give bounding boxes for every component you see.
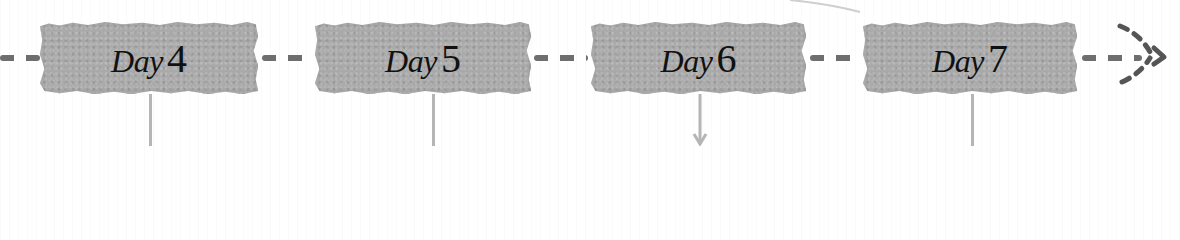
day-number: 7 [988, 35, 1008, 82]
day-4-stem [149, 94, 152, 146]
day-5-stem [432, 94, 435, 146]
timeline-connector-6-7 [810, 55, 860, 61]
day-6-stem-arrow-icon [688, 94, 712, 146]
timeline-connector-4-5 [262, 55, 312, 61]
day-6-label: Day 6 [661, 35, 737, 82]
day-6-box: Day 6 [591, 22, 806, 94]
day-5-label: Day 5 [385, 35, 461, 82]
day-number: 6 [716, 35, 736, 82]
timeline-connector-5-6 [534, 55, 588, 61]
day-5-box: Day 5 [315, 22, 531, 94]
continuation-arrow-icon [1110, 20, 1176, 90]
day-number: 4 [167, 35, 187, 82]
day-word: Day [932, 43, 984, 80]
timeline-connector-start [0, 55, 40, 61]
day-7-stem [971, 94, 974, 146]
day-4-label: Day 4 [111, 35, 187, 82]
faint-curve-decoration [790, 0, 870, 14]
day-7-label: Day 7 [932, 35, 1008, 82]
day-number: 5 [441, 35, 461, 82]
day-4-box: Day 4 [40, 22, 258, 94]
day-word: Day [385, 43, 437, 80]
day-7-box: Day 7 [863, 22, 1077, 94]
day-word: Day [661, 43, 713, 80]
day-word: Day [111, 43, 163, 80]
